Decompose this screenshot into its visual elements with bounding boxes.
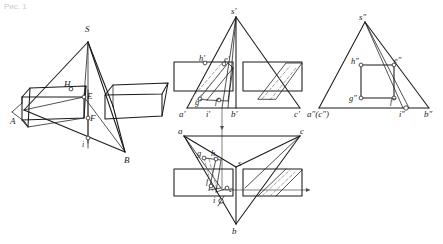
top-point-f-marker	[209, 184, 213, 188]
top-label-e: e	[229, 184, 233, 194]
side-label-h: h″	[351, 56, 359, 66]
top-label-c: c	[300, 126, 304, 136]
label-F: F	[89, 113, 96, 123]
top-label-b: b	[232, 226, 237, 236]
technical-drawing-canvas: .s{fill:none;stroke:#1a1a1a;stroke-width…	[0, 0, 443, 244]
pictorial-view: S A B E F H i	[9, 24, 168, 165]
top-label-h: h	[211, 148, 215, 158]
side-label-s: s″	[359, 12, 367, 22]
drawing-sheet: .s{fill:none;stroke:#1a1a1a;stroke-width…	[0, 0, 443, 244]
point-E-marker	[82, 95, 86, 99]
front-view: h′ e′ g′ f′ s′ a′ b′ c′ i′	[174, 6, 302, 119]
point-i-marker	[86, 136, 90, 140]
side-label-e: e″	[394, 55, 402, 65]
front-label-e: e′	[224, 54, 230, 64]
front-label-h: h′	[199, 53, 205, 63]
label-S: S	[85, 24, 90, 34]
side-label-f: f″	[390, 96, 396, 106]
top-prism-left	[174, 169, 233, 196]
front-label-a: a′	[179, 109, 187, 119]
top-label-g: g	[197, 148, 201, 158]
side-prism-square	[361, 65, 394, 98]
top-pyramid	[184, 136, 300, 224]
front-label-g: g′	[195, 97, 201, 107]
front-label-s: s′	[231, 6, 238, 16]
top-view: a c b s g h f e i	[174, 108, 310, 236]
top-label-s: s	[238, 158, 242, 168]
front-label-c: c′	[294, 109, 301, 119]
label-B: B	[124, 155, 130, 165]
side-label-b: b″	[424, 109, 433, 119]
side-label-g: g″	[349, 93, 357, 103]
projection-arrows	[222, 108, 310, 190]
label-A: A	[9, 116, 16, 126]
side-label-ac: a″(c″)	[307, 109, 329, 119]
side-point-h-marker	[359, 63, 363, 67]
front-label-i: i′	[206, 109, 210, 119]
front-label-b: b′	[231, 109, 239, 119]
label-i: i	[82, 140, 84, 149]
side-point-g-marker	[359, 96, 363, 100]
top-label-a: a	[178, 126, 183, 136]
label-H: H	[63, 79, 71, 89]
front-label-f: f′	[215, 96, 219, 106]
label-E: E	[86, 91, 93, 101]
side-view: s″ h″ e″ g″ f″ a″(c″) i″ b″	[307, 12, 433, 119]
sheet-caption: Рис. 1	[4, 2, 27, 11]
side-label-i: i″	[399, 109, 405, 119]
top-point-g-marker	[202, 156, 206, 160]
